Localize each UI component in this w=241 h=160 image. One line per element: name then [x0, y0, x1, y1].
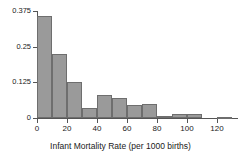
histogram-bar: [37, 16, 52, 118]
histogram-figure: 00.1250.250.375 020406080100120 Infant M…: [0, 0, 241, 160]
histogram-bar: [112, 98, 127, 118]
histogram-bars: [0, 0, 241, 160]
histogram-bar: [172, 114, 187, 118]
histogram-bar: [187, 114, 202, 118]
histogram-bar: [127, 105, 142, 118]
x-axis-title: Infant Mortality Rate (per 1000 births): [0, 141, 241, 151]
histogram-bar: [142, 104, 157, 118]
histogram-bar: [217, 117, 232, 119]
histogram-bar: [82, 108, 97, 118]
histogram-bar: [97, 95, 112, 118]
histogram-bar: [157, 116, 172, 118]
histogram-bar: [67, 82, 82, 118]
histogram-bar: [52, 54, 67, 118]
